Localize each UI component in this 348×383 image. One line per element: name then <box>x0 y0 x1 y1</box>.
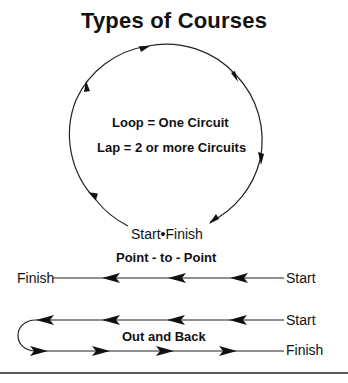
out-and-back-start-label: Start <box>286 312 316 328</box>
point-to-point-finish-label: Finish <box>17 270 54 286</box>
point-to-point-start-label: Start <box>286 270 316 286</box>
loop-definition: Loop = One Circuit <box>112 115 229 130</box>
loop-course-circle <box>69 44 262 226</box>
out-and-back-heading: Out and Back <box>122 329 206 344</box>
out-and-back-finish-label: Finish <box>286 342 323 358</box>
point-to-point-course-line <box>53 273 284 283</box>
point-to-point-heading: Point - to - Point <box>116 250 216 265</box>
lap-definition: Lap = 2 or more Circuits <box>97 140 246 155</box>
loop-direction-arrows <box>84 44 264 224</box>
loop-start-finish-label: Start•Finish <box>131 226 203 242</box>
